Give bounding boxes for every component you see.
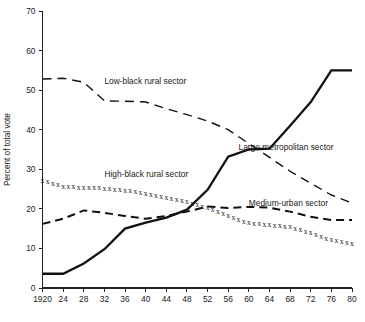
- data-point-marker: x: [324, 234, 328, 243]
- data-point-marker: x: [278, 221, 282, 230]
- y-axis-title: Percent of total vote: [3, 113, 12, 186]
- data-point-marker: x: [128, 186, 132, 195]
- data-point-marker: x: [319, 232, 323, 241]
- data-point-marker: x: [237, 215, 241, 224]
- data-point-marker: x: [56, 180, 60, 189]
- y-tick-label: 10: [26, 243, 36, 253]
- data-point-marker: x: [139, 188, 143, 197]
- data-point-marker: x: [154, 191, 158, 200]
- x-tick-label: 1920: [33, 294, 52, 304]
- data-point-marker: x: [247, 218, 251, 227]
- x-tick-label: 36: [120, 294, 130, 304]
- y-tick-label: 0: [31, 283, 36, 293]
- series-x-markers: xxxxxxxxxxxxxxxxxxxxxxxxxxxxxxxxxxxxxxxx…: [41, 176, 355, 248]
- data-point-marker: x: [77, 183, 81, 192]
- x-tick-label: 32: [100, 294, 110, 304]
- data-point-marker: x: [345, 238, 349, 247]
- data-point-marker: x: [350, 239, 354, 248]
- data-point-marker: x: [175, 195, 179, 204]
- series-line: [43, 70, 353, 273]
- data-point-marker: x: [133, 187, 137, 196]
- data-point-marker: x: [123, 186, 127, 195]
- data-series-group: xxxxxxxxxxxxxxxxxxxxxxxxxxxxxxxxxxxxxxxx…: [41, 70, 355, 273]
- series-label: High-black rural sector: [104, 169, 188, 179]
- x-tick-label: 44: [162, 294, 172, 304]
- data-point-marker: x: [164, 193, 168, 202]
- series-line: [43, 206, 353, 223]
- data-point-marker: x: [82, 183, 86, 192]
- data-point-marker: x: [314, 230, 318, 239]
- x-tick-label: 28: [79, 294, 89, 304]
- y-tick-label: 30: [26, 164, 36, 174]
- data-point-marker: x: [108, 184, 112, 193]
- series-label: Large metropolitan sector: [239, 142, 334, 152]
- data-point-marker: x: [340, 237, 344, 246]
- data-point-marker: x: [170, 194, 174, 203]
- data-point-marker: x: [113, 185, 117, 194]
- data-point-marker: x: [242, 217, 246, 226]
- x-tick-label: 40: [141, 294, 151, 304]
- y-tick-label: 20: [26, 204, 36, 214]
- data-point-marker: x: [299, 225, 303, 234]
- y-axis-title-group: Percent of total vote: [3, 113, 12, 186]
- data-point-marker: x: [118, 185, 122, 194]
- data-point-marker: x: [97, 183, 101, 192]
- y-tick-label: 50: [26, 85, 36, 95]
- series-label: Low-black rural sector: [104, 76, 186, 86]
- data-point-marker: x: [226, 211, 230, 220]
- x-tick-label: 60: [244, 294, 254, 304]
- data-point-marker: x: [201, 202, 205, 211]
- data-point-marker: x: [159, 192, 163, 201]
- data-point-marker: x: [221, 209, 225, 218]
- data-point-marker: x: [180, 196, 184, 205]
- y-tick-label: 40: [26, 125, 36, 135]
- data-point-marker: x: [273, 221, 277, 230]
- data-point-marker: x: [329, 235, 333, 244]
- data-point-marker: x: [293, 224, 297, 233]
- data-point-marker: x: [46, 177, 50, 186]
- y-tick-label: 60: [26, 46, 36, 56]
- data-point-marker: x: [262, 220, 266, 229]
- data-point-marker: x: [51, 179, 55, 188]
- data-point-marker: x: [216, 207, 220, 216]
- data-point-marker: x: [185, 197, 189, 206]
- series-label: Medium-urban sector: [249, 198, 328, 208]
- data-point-marker: x: [304, 227, 308, 236]
- x-tick-label: 24: [58, 294, 68, 304]
- x-tick-label: 76: [327, 294, 337, 304]
- data-point-marker: x: [257, 219, 261, 228]
- y-tick-label: 70: [26, 6, 36, 16]
- data-point-marker: x: [41, 176, 45, 185]
- x-tick-label: 52: [203, 294, 213, 304]
- x-tick-label: 64: [265, 294, 275, 304]
- data-point-marker: x: [92, 183, 96, 192]
- x-tick-label: 48: [182, 294, 192, 304]
- line-chart: 010203040506070 192024283236404448525660…: [0, 0, 365, 322]
- x-tick-label: 68: [285, 294, 295, 304]
- x-axis-ticks: 1920242832364044485256606468727680: [33, 288, 357, 304]
- x-tick-label: 56: [224, 294, 234, 304]
- x-tick-label: 80: [347, 294, 357, 304]
- data-point-marker: x: [309, 228, 313, 237]
- data-point-marker: x: [144, 189, 148, 198]
- data-point-marker: x: [283, 222, 287, 231]
- data-point-marker: x: [149, 190, 153, 199]
- data-point-marker: x: [61, 182, 65, 191]
- data-point-marker: x: [252, 219, 256, 228]
- x-tick-label: 72: [306, 294, 316, 304]
- data-point-marker: x: [87, 183, 91, 192]
- data-point-marker: x: [231, 213, 235, 222]
- chart-container: 010203040506070 192024283236404448525660…: [0, 0, 365, 322]
- data-point-marker: x: [66, 182, 70, 191]
- y-axis-ticks: 010203040506070: [26, 6, 42, 293]
- data-point-marker: x: [268, 220, 272, 229]
- data-point-marker: x: [335, 236, 339, 245]
- data-point-marker: x: [103, 184, 107, 193]
- data-point-marker: x: [288, 222, 292, 231]
- data-point-marker: x: [72, 182, 76, 191]
